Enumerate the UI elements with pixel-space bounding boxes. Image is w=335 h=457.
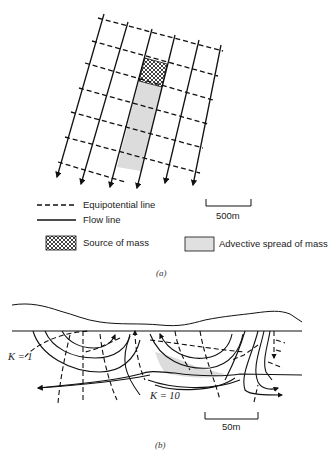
source-of-mass-symbol	[46, 236, 76, 250]
panel-b-cross-section	[12, 304, 302, 403]
advective-spread-symbol	[185, 237, 214, 251]
scale-bar-50m	[205, 412, 258, 419]
scale-label-50m: 50m	[222, 421, 240, 432]
legend-source-label: Source of mass	[83, 237, 149, 248]
k-lower-label: K = 10	[150, 390, 180, 401]
caption-b: (b)	[155, 440, 166, 450]
legend-advective-label: Advective spread of mass	[219, 238, 328, 249]
flow-net-diagram	[0, 0, 335, 457]
k-upper-label: K = 1	[8, 351, 33, 362]
ground-surface	[12, 304, 302, 326]
panel-a-flow-net	[57, 14, 223, 188]
legend-equipotential-label: Equipotential line	[83, 199, 155, 210]
caption-a: (a)	[156, 268, 167, 278]
scale-label-500m: 500m	[216, 210, 240, 221]
legend-flow-label: Flow line	[83, 214, 121, 225]
advective-spread-area	[117, 81, 162, 171]
scale-bar-500m	[206, 199, 251, 206]
